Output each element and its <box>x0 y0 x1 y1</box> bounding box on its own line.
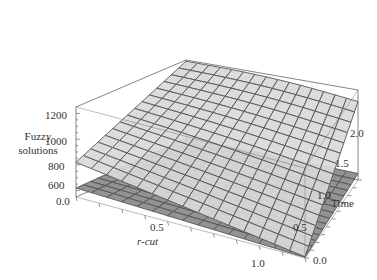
z-tick-600: 600 <box>48 180 65 191</box>
z-tick-1200: 1200 <box>45 110 67 121</box>
y-tick-1: 1.0 <box>317 190 331 201</box>
y-tick-2: 2.0 <box>350 128 364 139</box>
x-axis-label: r-cut <box>137 236 158 247</box>
z-tick-800: 800 <box>48 161 65 172</box>
y-axis-label: Time <box>331 198 354 209</box>
y-tick-0: 0.0 <box>313 255 327 266</box>
y-tick-15: 1.5 <box>335 158 349 169</box>
z-tick-1000: 1000 <box>45 136 67 147</box>
x-tick-0: 0.0 <box>56 196 70 207</box>
y-tick-05: 0.5 <box>293 222 307 233</box>
x-tick-1: 1.0 <box>251 258 265 269</box>
x-tick-05: 0.5 <box>150 222 164 233</box>
